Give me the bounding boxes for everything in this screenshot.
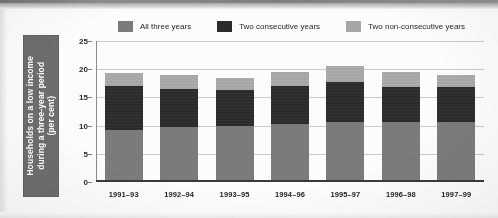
- x-axis-tick-label: 1994–96: [260, 190, 320, 199]
- y-axis-tick-label: 20: [58, 65, 88, 74]
- bar-segment[interactable]: [382, 87, 420, 123]
- bar-segment[interactable]: [105, 86, 143, 130]
- x-axis-labels: 1991–931992–941993–951994–961995–971996–…: [96, 190, 484, 204]
- y-axis-title-line3: (per cent): [46, 56, 57, 176]
- legend-swatch-icon: [118, 21, 133, 32]
- bar-segment[interactable]: [382, 72, 420, 87]
- bar-segment[interactable]: [105, 130, 143, 182]
- y-axis-tick: [88, 182, 92, 183]
- plot-area: [96, 41, 484, 182]
- y-axis-tick: [88, 69, 92, 70]
- legend-swatch-icon: [217, 21, 232, 32]
- scan-edge-top-dark: [0, 0, 498, 3]
- y-axis-tick-label: 10: [58, 121, 88, 130]
- x-axis-tick-label: 1997–99: [426, 190, 486, 199]
- y-axis-tick: [88, 41, 92, 42]
- x-axis-tick-label: 1992–94: [149, 190, 209, 199]
- bar-segment[interactable]: [160, 75, 198, 89]
- y-axis-tick: [88, 97, 92, 98]
- bar-segment[interactable]: [271, 86, 309, 124]
- scan-edge-left: [0, 9, 7, 218]
- bar-segment[interactable]: [160, 127, 198, 182]
- bar-segment[interactable]: [326, 82, 364, 123]
- legend-label: All three years: [140, 22, 191, 31]
- bar-segment[interactable]: [105, 73, 143, 87]
- y-axis-title-line1: Households on a low income: [25, 56, 36, 176]
- y-axis-tick: [88, 154, 92, 155]
- bar-column[interactable]: [105, 73, 143, 182]
- x-axis-tick-label: 1996–98: [371, 190, 431, 199]
- bar-segment[interactable]: [437, 87, 475, 121]
- legend-label: Two non-consecutive years: [368, 22, 465, 31]
- bar-column[interactable]: [326, 66, 364, 182]
- y-axis-tick: [88, 126, 92, 127]
- bar-segment[interactable]: [326, 122, 364, 182]
- bar-segment[interactable]: [216, 126, 254, 182]
- x-axis-tick-label: 1995–97: [315, 190, 375, 199]
- bar-series-group: [96, 41, 484, 182]
- legend-swatch-icon: [346, 21, 361, 32]
- chart-page: Households on a low income during a thre…: [0, 0, 498, 218]
- x-axis-tick-label: 1993–95: [205, 190, 265, 199]
- bar-segment[interactable]: [216, 78, 254, 90]
- bar-segment[interactable]: [160, 89, 198, 127]
- bar-column[interactable]: [271, 72, 309, 182]
- legend-two-consecutive-years: Two consecutive years: [217, 21, 320, 32]
- legend-two-non-consecutive-years: Two non-consecutive years: [346, 21, 465, 32]
- bar-column[interactable]: [382, 72, 420, 182]
- bar-segment[interactable]: [271, 72, 309, 86]
- chart-legend: All three yearsTwo consecutive yearsTwo …: [118, 19, 491, 33]
- x-axis-tick-label: 1991–93: [94, 190, 154, 199]
- legend-label: Two consecutive years: [239, 22, 320, 31]
- bar-segment[interactable]: [326, 66, 364, 81]
- bar-segment[interactable]: [216, 90, 254, 126]
- y-axis-title-box: Households on a low income during a thre…: [24, 36, 58, 196]
- scan-edge-bottom: [0, 212, 498, 218]
- bar-segment[interactable]: [437, 122, 475, 182]
- bar-segment[interactable]: [271, 124, 309, 182]
- y-axis-labels: 0510152025: [58, 33, 92, 190]
- y-axis-title: Households on a low income during a thre…: [25, 56, 57, 176]
- bar-segment[interactable]: [437, 75, 475, 87]
- y-axis-tick-label: 5: [58, 149, 88, 158]
- bar-column[interactable]: [437, 75, 475, 182]
- legend-all-three-years: All three years: [118, 21, 191, 32]
- x-axis-line: [96, 180, 484, 182]
- y-axis-title-line2: during a three-year period: [36, 56, 47, 176]
- y-axis-tick-label: 0: [58, 178, 88, 187]
- bar-segment[interactable]: [382, 122, 420, 182]
- bar-column[interactable]: [216, 78, 254, 182]
- y-axis-tick-label: 15: [58, 93, 88, 102]
- bar-column[interactable]: [160, 75, 198, 182]
- y-axis-tick-label: 25: [58, 37, 88, 46]
